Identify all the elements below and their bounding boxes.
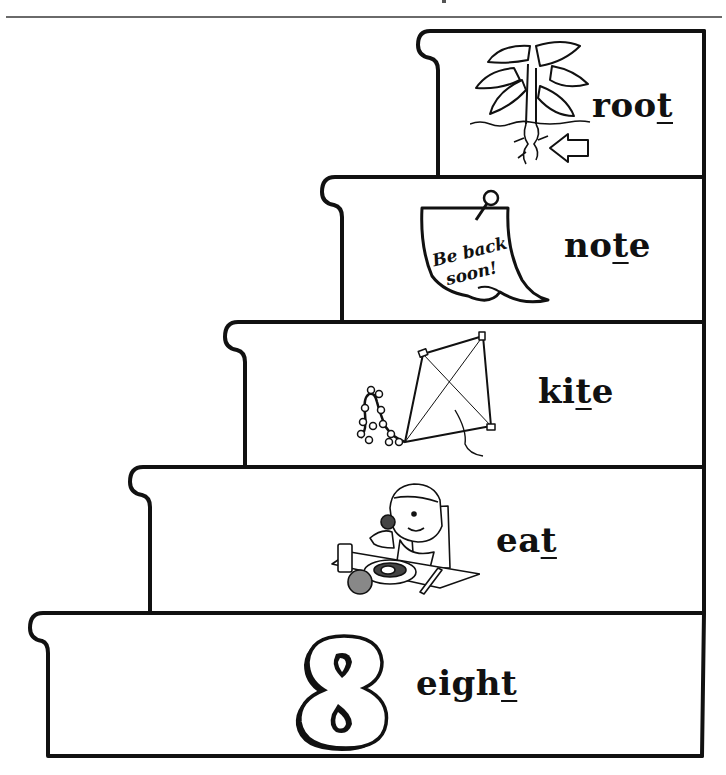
word-kite-target-letter: t — [575, 371, 591, 411]
word-note-target-letter: t — [612, 225, 628, 265]
word-note: note — [564, 228, 651, 262]
word-note-end: e — [629, 225, 651, 265]
word-kite: kite — [538, 374, 614, 408]
word-eight-start: eigh — [416, 663, 501, 703]
boy-eating-icon — [330, 478, 480, 598]
sticky-note-icon: Be back soon! — [418, 188, 558, 312]
word-eight: eight — [416, 666, 517, 700]
word-eight-target-letter: t — [501, 663, 517, 703]
word-eat-start: ea — [496, 520, 541, 560]
word-eat: eat — [496, 523, 557, 557]
word-root: root — [592, 88, 673, 122]
word-root-start: roo — [592, 85, 657, 125]
kite-icon — [355, 330, 505, 460]
staircase-right-wall — [702, 31, 704, 756]
number-eight-icon — [290, 628, 396, 752]
word-note-start: no — [564, 225, 612, 265]
word-kite-end: e — [592, 371, 614, 411]
word-eat-target-letter: t — [541, 520, 557, 560]
word-kite-start: ki — [538, 371, 575, 411]
word-root-target-letter: t — [657, 85, 673, 125]
plant-root-icon — [470, 40, 610, 170]
